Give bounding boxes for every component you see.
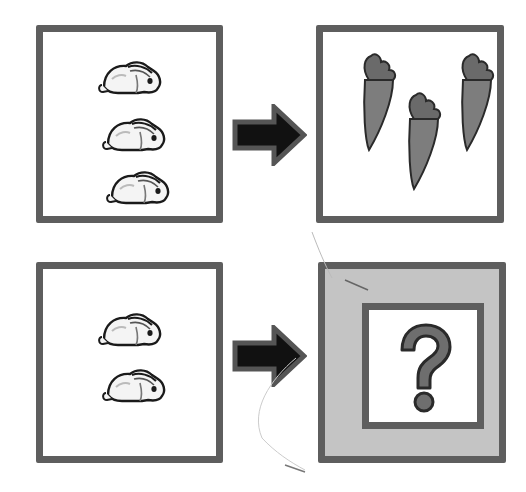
- pen-stroke-decoration: [0, 0, 526, 492]
